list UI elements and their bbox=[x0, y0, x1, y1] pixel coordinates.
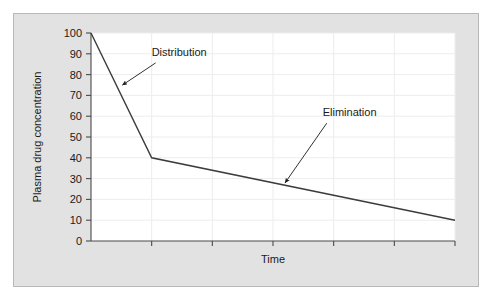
plasma-concentration-chart: 0102030405060708090100 Distribution Elim… bbox=[0, 0, 492, 299]
y-tick-label: 30 bbox=[70, 173, 82, 185]
x-axis-title: Time bbox=[261, 253, 285, 265]
y-tick-label: 20 bbox=[70, 193, 82, 205]
y-tick-label: 70 bbox=[70, 89, 82, 101]
annotation-label-distribution: Distribution bbox=[152, 46, 207, 58]
y-axis-title: Plasma drug concentration bbox=[31, 72, 43, 203]
y-tick-label: 60 bbox=[70, 110, 82, 122]
y-tick-label: 40 bbox=[70, 152, 82, 164]
y-tick-label: 80 bbox=[70, 69, 82, 81]
y-tick-label: 10 bbox=[70, 214, 82, 226]
annotation-label-elimination: Elimination bbox=[323, 106, 377, 118]
y-tick-label: 0 bbox=[76, 235, 82, 247]
y-tick-label: 50 bbox=[70, 131, 82, 143]
y-tick-label: 100 bbox=[64, 27, 82, 39]
y-tick-label: 90 bbox=[70, 48, 82, 60]
figure-container: 0102030405060708090100 Distribution Elim… bbox=[0, 0, 492, 299]
